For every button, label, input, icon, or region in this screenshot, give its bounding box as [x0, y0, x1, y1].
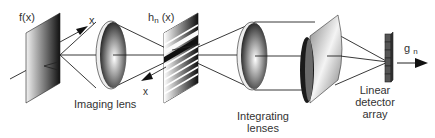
mask-sub: n: [154, 16, 158, 25]
mask-axis-label: x: [143, 86, 148, 98]
integrating-lens-1: [237, 22, 268, 90]
integrating-lenses-label: Integrating lenses: [228, 110, 298, 134]
mask-x-arrow-icon: [141, 67, 166, 81]
imaging-lens-label: Imaging lens: [74, 98, 136, 110]
input-x-arrow-icon: [60, 26, 88, 42]
integrating-lens-cylindrical: [300, 15, 342, 103]
integrating-lenses-line-2: lenses: [228, 122, 298, 134]
output-main: g: [404, 42, 410, 54]
output-sub: n: [413, 47, 417, 56]
detector-label: Linear detector array: [346, 84, 404, 120]
mask-plane-hn: [164, 13, 200, 103]
detector-line-1: Linear: [346, 84, 404, 96]
input-axis-label: x: [89, 14, 95, 26]
mask-arg: (x): [162, 11, 175, 23]
detector-line-2: detector: [346, 96, 404, 108]
detector-line-3: array: [346, 108, 404, 120]
input-plane-fx: [26, 13, 60, 103]
integrating-lenses-line-1: Integrating: [228, 110, 298, 122]
mask-plane-label: hn (x): [148, 11, 174, 25]
output-arrow-icon: [397, 58, 428, 68]
input-plane-label: f(x): [19, 11, 35, 23]
linear-detector-array: [385, 32, 393, 82]
imaging-lens: [96, 21, 126, 89]
output-label: g n: [404, 42, 418, 56]
